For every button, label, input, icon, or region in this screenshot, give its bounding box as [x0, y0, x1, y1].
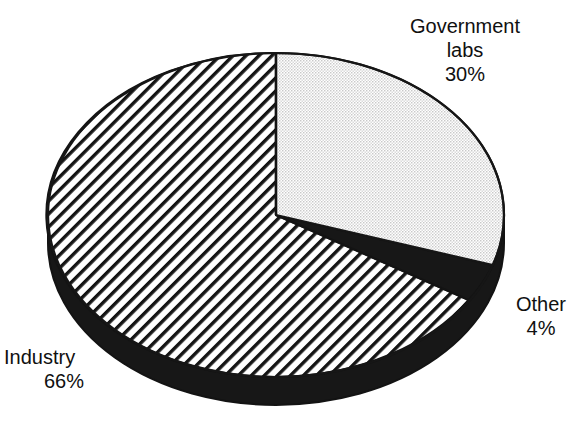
- slice-label-government-labs-line2: labs: [380, 38, 550, 62]
- slice-label-other: Other 4%: [512, 292, 570, 340]
- slice-label-other-line1: Other: [512, 292, 570, 316]
- pie-chart-figure: Government labs 30% Other 4% Industry 66…: [0, 0, 570, 421]
- slice-label-government-labs: Government labs 30%: [380, 14, 550, 86]
- slice-label-government-labs-line1: Government: [380, 14, 550, 38]
- slice-label-other-percent: 4%: [512, 316, 570, 340]
- slice-label-industry-line1: Industry: [4, 345, 164, 369]
- slice-label-industry: Industry 66%: [4, 345, 164, 393]
- slice-label-government-labs-percent: 30%: [380, 62, 550, 86]
- slice-label-industry-percent: 66%: [4, 369, 124, 393]
